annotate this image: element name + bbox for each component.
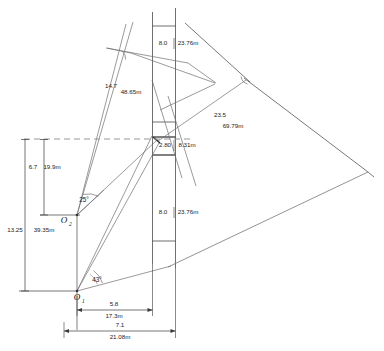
station-marker-o2 <box>76 214 79 217</box>
ray-o1-upper-a <box>77 136 152 291</box>
label-horizontal-far-bottom: 21.08m <box>110 333 131 340</box>
label-lower-panel-near: 8.0 <box>159 208 168 215</box>
ray-o1-upper-b <box>77 143 159 291</box>
station-label-o2: O 2 <box>61 215 72 227</box>
triangle-top-edge <box>185 23 250 82</box>
label-lower-panel-far: 23.76m <box>178 208 199 215</box>
station-o1-subscript: 1 <box>82 298 85 304</box>
ray-o1-lower-right <box>77 266 171 291</box>
transversal-mid <box>131 53 215 83</box>
diagram-canvas: 8.0 23.76m 14.7 48.65m 23.5 69.79m 2.80 … <box>0 0 384 351</box>
label-right-ray-near: 23.5 <box>214 111 227 118</box>
dim-arrow-far-right <box>171 329 176 333</box>
label-horizontal-near-top: 5.8 <box>110 300 119 307</box>
ray-down-through-strip <box>152 80 182 178</box>
label-horizontal-near-bottom: 17.3m <box>105 312 122 319</box>
right-triangle-group <box>106 23 374 267</box>
label-o2-offset-far: 19.9m <box>43 163 60 170</box>
station-label-o1: O 1 <box>74 292 85 304</box>
survey-diagram: 8.0 23.76m 14.7 48.65m 23.5 69.79m 2.80 … <box>0 0 384 351</box>
label-angle-o2: 25° <box>79 196 89 203</box>
label-upper-panel-far: 23.76m <box>178 39 199 46</box>
label-center-gap-far: 8.31m <box>178 141 195 148</box>
station-o2-subscript: 2 <box>69 221 72 227</box>
panel-strip-group <box>153 8 176 268</box>
label-o2-offset-near: 6.7 <box>29 163 38 170</box>
dim-arrow-near-left <box>77 308 82 312</box>
sight-line-upper-to-apex <box>188 63 216 83</box>
station-o2-letter: O <box>61 215 68 225</box>
station-o1-letter: O <box>74 292 81 302</box>
station-marker-o1 <box>76 290 79 293</box>
dim-arrow-far-left <box>64 329 69 333</box>
label-o1-offset-far: 39.35m <box>34 226 55 233</box>
triangle-right-edge-tip <box>368 172 374 177</box>
ray-o2-upper-b <box>77 22 133 215</box>
label-upper-left-ray-near: 14.7 <box>105 82 118 89</box>
ray-o2-upper-a <box>77 24 126 215</box>
ray-center-to-vertex <box>158 80 246 141</box>
label-upper-left-ray-far: 48.65m <box>121 88 142 95</box>
triangle-right-edge <box>244 78 368 172</box>
label-o1-offset-near: 13.25 <box>7 226 23 233</box>
rays-from-o2 <box>77 22 156 215</box>
label-horizontal-far-top: 7.1 <box>116 321 125 328</box>
label-angle-o1: 43° <box>92 276 102 283</box>
triangle-bottom-edge <box>168 172 368 267</box>
label-upper-panel-near: 8.0 <box>159 39 168 46</box>
construction-lines-group <box>107 48 215 186</box>
dim-arrow-near-right <box>148 308 153 312</box>
label-center-gap-near: 2.80 <box>159 141 172 148</box>
label-right-ray-far: 69.79m <box>223 122 244 129</box>
